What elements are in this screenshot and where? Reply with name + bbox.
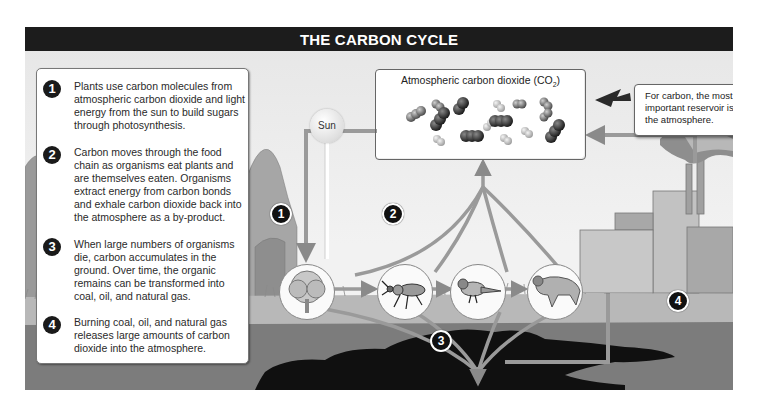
step-number-4: 4 xyxy=(43,316,61,334)
badge-step-2: 2 xyxy=(382,203,404,225)
factory xyxy=(580,157,733,293)
callout-text: For carbon, the most important reservoir… xyxy=(645,90,733,126)
wildcat-icon xyxy=(528,265,582,319)
wildcat-circle xyxy=(527,264,583,320)
badge-step-3: 3 xyxy=(430,330,452,352)
tree-circle xyxy=(279,264,335,320)
step-text-2: Carbon moves through the food chain as o… xyxy=(74,146,246,224)
beetle-icon xyxy=(378,265,432,319)
atmosphere-label: Atmospheric carbon dioxide (CO2) xyxy=(376,74,585,88)
beetle-circle xyxy=(377,264,433,320)
step-number-3: 3 xyxy=(43,238,61,256)
sun-icon: Sun xyxy=(310,109,344,143)
tree-icon xyxy=(280,265,334,319)
badge-step-1: 1 xyxy=(270,203,292,225)
bird-icon xyxy=(451,265,505,319)
step-number-2: 2 xyxy=(43,146,61,164)
sun-label: Sun xyxy=(310,120,344,131)
step-text-4: Burning coal, oil, and natural gas relea… xyxy=(74,316,246,355)
step-text-1: Plants use carbon molecules from atmosph… xyxy=(74,80,246,132)
steps-textbox: 1 Plants use carbon molecules from atmos… xyxy=(36,68,249,364)
reservoir-callout: For carbon, the most important reservoir… xyxy=(634,84,733,136)
atmosphere-co2-box: Atmospheric carbon dioxide (CO2) xyxy=(375,69,586,160)
badge-step-4: 4 xyxy=(667,290,689,312)
step-number-1: 1 xyxy=(43,80,61,98)
callout-pointer-arrow xyxy=(595,89,631,107)
bird-circle xyxy=(450,264,506,320)
carbon-cycle-panel: Atmospheric carbon dioxide (CO2) For car… xyxy=(25,27,733,390)
page-title: THE CARBON CYCLE xyxy=(25,27,733,51)
step-text-3: When large numbers of organisms die, car… xyxy=(74,238,246,303)
